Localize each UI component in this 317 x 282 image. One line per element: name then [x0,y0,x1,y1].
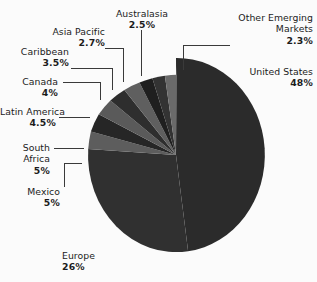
label-united-states: United States 48% [180,66,313,89]
label-canada-value: 4% [0,87,58,98]
label-south-africa: South Africa 5% [0,142,50,176]
label-latin-america-value: 4.5% [0,117,56,128]
label-latin-america: Latin America 4.5% [0,106,56,129]
label-other-emerging-value: 2.3% [148,35,313,46]
label-other-emerging: Other Emerging Markets 2.3% [148,12,313,46]
pie-chart-page: Australasia 2.5% Other Emerging Markets … [0,0,317,282]
label-south-africa-name-line2: Africa [0,153,50,164]
leader-line-asia-pacific [105,48,123,82]
label-south-africa-value: 5% [0,165,50,176]
label-europe-value: 26% [62,261,152,272]
leader-line-canada [63,82,100,100]
label-europe-name: Europe [62,250,152,261]
label-other-emerging-name-line2: Markets [148,23,313,34]
label-asia-pacific-name: Asia Pacific [4,26,105,37]
pie-slice-europe[interactable] [88,149,188,252]
label-canada: Canada 4% [0,76,58,99]
label-other-emerging-name-line1: Other Emerging [148,12,313,23]
label-united-states-name: United States [180,66,313,77]
leader-line-mexico [64,163,82,187]
leader-line-caribbean [71,68,112,90]
label-united-states-value: 48% [180,77,313,88]
label-europe: Europe 26% [62,250,152,273]
label-mexico: Mexico 5% [0,186,60,209]
label-south-africa-name-line1: South [0,142,50,153]
label-canada-name: Canada [0,76,58,87]
label-mexico-value: 5% [0,197,60,208]
label-caribbean-name: Caribbean [0,46,69,57]
label-mexico-name: Mexico [0,186,60,197]
label-caribbean: Caribbean 3.5% [0,46,69,69]
label-caribbean-value: 3.5% [0,57,69,68]
label-latin-america-name: Latin America [0,106,56,117]
